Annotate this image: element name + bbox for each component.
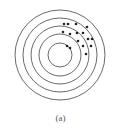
hit-point (63, 23, 66, 26)
hit-point (62, 31, 65, 34)
hit-point (91, 38, 94, 41)
hit-point (69, 47, 72, 50)
hit-point (87, 38, 90, 41)
hit-point (82, 45, 85, 48)
target-ring-4 (39, 34, 81, 76)
hit-point (66, 45, 69, 48)
target-ring-1 (15, 10, 105, 100)
target-ring-3 (31, 26, 89, 84)
figure-caption: (a) (0, 113, 121, 123)
hit-point (90, 45, 93, 48)
target-rings (15, 10, 105, 100)
hit-point (85, 53, 88, 56)
hit-point (82, 32, 85, 35)
hit-point (67, 23, 70, 26)
hit-point (75, 23, 78, 26)
hit-point (76, 32, 79, 35)
hit-point (86, 26, 89, 29)
hit-point (69, 33, 72, 36)
hit-point (77, 40, 80, 43)
target-ring-5 (48, 43, 72, 67)
